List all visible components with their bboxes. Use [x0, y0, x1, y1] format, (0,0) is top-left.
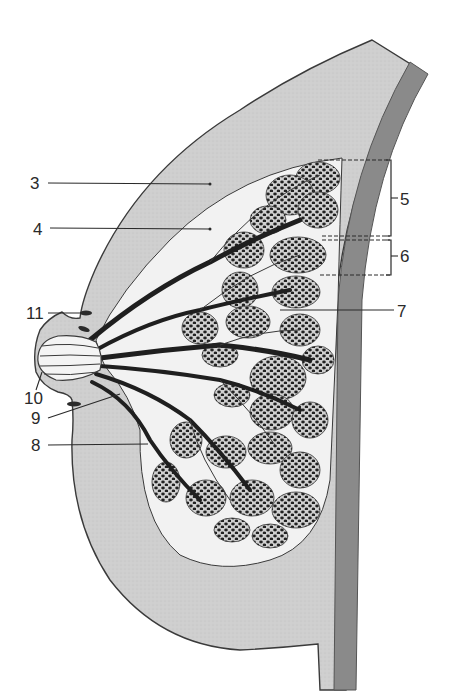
breast-anatomy-diagram: 3 4 5 6 7 8 9 10 11	[0, 0, 454, 694]
label-5: 5	[400, 190, 409, 209]
label-11: 11	[26, 304, 44, 323]
label-10: 10	[24, 389, 43, 408]
label-3: 3	[30, 174, 39, 193]
label-7: 7	[397, 302, 406, 321]
label-4: 4	[33, 220, 42, 239]
label-8: 8	[31, 436, 40, 455]
nipple	[38, 336, 102, 381]
label-6: 6	[400, 247, 409, 266]
label-9: 9	[31, 409, 40, 428]
areolar-gland-lower	[67, 402, 81, 407]
